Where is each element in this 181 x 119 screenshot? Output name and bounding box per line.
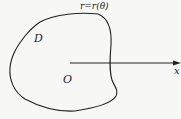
boundary-curve [10,13,117,111]
polar-region-diagram [0,0,181,119]
region-label: D [34,33,43,44]
origin-label: O [63,74,72,85]
curve-label: r=r(θ) [80,2,109,11]
axis-label: x [174,66,180,76]
